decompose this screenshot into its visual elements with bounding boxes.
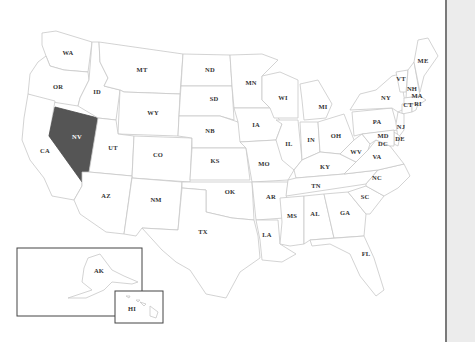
label-nm: NM <box>150 196 161 203</box>
label-wy: WY <box>147 109 159 116</box>
label-mn: MN <box>245 79 256 86</box>
label-ar: AR <box>266 193 276 200</box>
label-id: ID <box>93 88 101 95</box>
label-ny: NY <box>381 94 391 101</box>
label-mt: MT <box>137 66 148 73</box>
label-nv: NV <box>72 133 82 140</box>
label-in: IN <box>307 136 315 143</box>
label-me: ME <box>418 57 429 64</box>
label-ut: UT <box>108 144 118 151</box>
state-ms[interactable] <box>280 196 304 246</box>
state-fl[interactable] <box>310 236 384 296</box>
label-mo: MO <box>258 160 270 167</box>
label-nd: ND <box>205 66 215 73</box>
label-nj: NJ <box>397 123 406 130</box>
label-mi: MI <box>318 103 327 110</box>
state-nm[interactable] <box>124 178 182 236</box>
label-ms: MS <box>287 212 297 219</box>
label-ma: MA <box>411 92 422 99</box>
label-ga: GA <box>340 209 350 216</box>
label-tx: TX <box>198 228 208 235</box>
label-ca: CA <box>40 147 50 154</box>
label-co: CO <box>153 151 163 158</box>
label-nc: NC <box>372 174 382 181</box>
label-ky: KY <box>320 163 330 170</box>
label-pa: PA <box>373 118 382 125</box>
label-il: IL <box>285 140 293 147</box>
label-vt: VT <box>396 75 406 82</box>
state-mi[interactable] <box>300 80 332 120</box>
label-oh: OH <box>331 132 342 139</box>
label-ia: IA <box>252 121 260 128</box>
label-tn: TN <box>311 182 321 189</box>
label-or: OR <box>53 83 63 90</box>
label-va: VA <box>373 153 382 160</box>
label-ri: RI <box>414 100 422 107</box>
label-wi: WI <box>278 94 288 101</box>
label-ok: OK <box>225 188 236 195</box>
label-ks: KS <box>210 157 219 164</box>
label-wa: WA <box>63 49 74 56</box>
us-map: WA OR CA NV ID MT WY UT CO AZ NM ND SD N… <box>0 0 445 342</box>
label-al: AL <box>310 210 320 217</box>
label-ak: AK <box>94 267 104 274</box>
label-sd: SD <box>210 95 219 102</box>
label-dc: DC <box>378 140 388 147</box>
state-ks[interactable] <box>190 148 250 180</box>
side-panel-scrollbar[interactable] <box>445 0 475 342</box>
state-az[interactable] <box>74 172 132 234</box>
label-ct: CT <box>403 101 413 108</box>
label-nh: NH <box>407 85 417 92</box>
label-nb: NB <box>205 127 215 134</box>
state-co[interactable] <box>132 136 192 182</box>
label-az: AZ <box>101 192 110 199</box>
label-fl: FL <box>362 250 371 257</box>
label-la: LA <box>262 231 272 238</box>
label-md: MD <box>377 132 388 139</box>
label-de: DE <box>395 135 404 142</box>
label-sc: SC <box>361 193 370 200</box>
label-hi: HI <box>128 305 136 312</box>
label-wv: WV <box>350 148 362 155</box>
state-sd[interactable] <box>179 86 234 120</box>
